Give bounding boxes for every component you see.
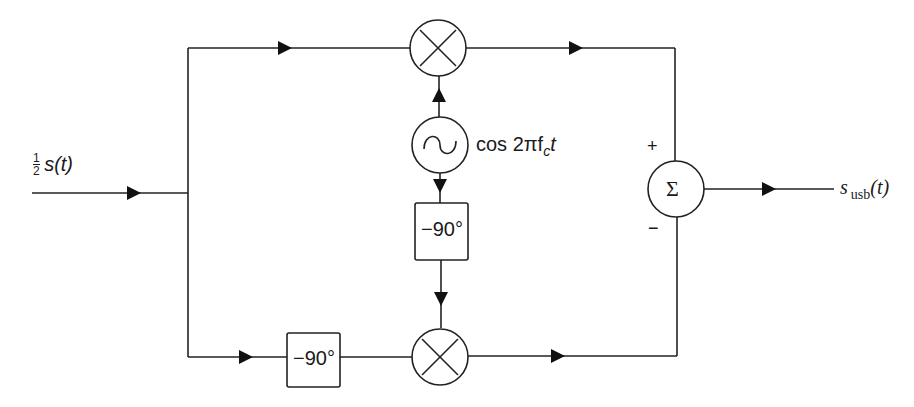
shift-down-arrow-icon [434,292,448,306]
bottom-branch-arrow-icon [239,350,253,364]
output-label: susb(t) [840,176,889,203]
osc-down-arrow-icon [433,179,447,193]
bottom-output-arrow-icon [551,349,565,363]
sigma-symbol: Σ [666,176,679,202]
output-label-sub: usb [851,187,870,202]
output-arrow-icon [762,182,776,196]
phase-shift-bottom-label: −90° [288,347,340,370]
input-signal-label: s(t) [44,153,73,175]
minus-sign: − [648,218,659,239]
block-diagram [0,0,914,407]
fraction-denominator: 2 [33,165,40,177]
top-output-arrow-icon [569,41,583,55]
oscillator-label-main: cos 2πf [476,133,543,155]
plus-sign: + [647,136,658,157]
osc-up-arrow-icon [432,88,446,102]
oscillator-label: cos 2πfct [476,133,556,159]
input-arrow-icon [127,186,141,200]
input-label: 1 2 s(t) [33,152,73,177]
phase-shift-top-label: −90° [416,218,468,241]
top-branch-arrow-icon [278,41,292,55]
oscillator-label-tail: t [550,133,556,155]
output-label-tail: (t) [870,176,889,198]
output-label-main: s [840,176,848,198]
